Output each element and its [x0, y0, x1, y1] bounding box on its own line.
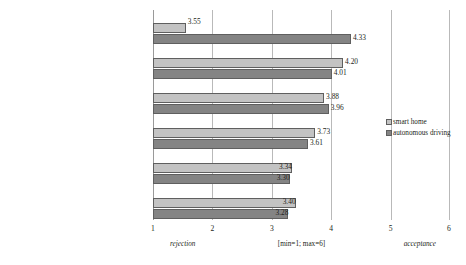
- bar-group: trust in the manufacturer 3.34 3.30: [153, 158, 450, 193]
- chart-legend: smart home autonomous driving: [386, 112, 466, 134]
- bar-value-label: 4.01: [332, 68, 347, 78]
- bar-value-label: 3.61: [308, 138, 323, 148]
- axis-annotation-acceptance: acceptance: [360, 240, 466, 248]
- legend-item-smart-home[interactable]: smart home: [386, 112, 466, 122]
- bar-value-label: 4.20: [343, 57, 358, 67]
- bar-smart-home: [153, 58, 343, 68]
- xtick-4: 4: [319, 224, 343, 233]
- xtick-2: 2: [200, 224, 224, 233]
- axis-annotation-scale: [min=1; max=6]: [242, 240, 362, 248]
- bar-value-label: 3.40: [272, 197, 298, 207]
- legend-label: autonomous driving: [393, 129, 451, 137]
- xtick-5: 5: [379, 224, 403, 233]
- bar-value-label: 4.33: [351, 33, 366, 43]
- bar-autonomous-driving: [153, 104, 329, 114]
- bar-value-label: 3.34: [268, 162, 294, 172]
- axis-annotation-rejection: rejection: [123, 240, 243, 248]
- bar-autonomous-driving: [153, 34, 351, 44]
- bar-value-label: 3.88: [324, 92, 339, 102]
- bar-smart-home: [153, 93, 324, 103]
- bar-value-label: 3.55: [186, 17, 201, 27]
- legend-item-autonomous-driving[interactable]: autonomous driving: [386, 123, 466, 133]
- xtick-3: 3: [260, 224, 284, 233]
- bar-group: test environment 3.55 4.33: [153, 18, 450, 53]
- xtick-6: 6: [437, 224, 461, 233]
- bar-value-label: 3.28: [264, 208, 290, 218]
- bar-group: environmental benefit / energy efficienc…: [153, 53, 450, 88]
- bar-value-label: 3.96: [329, 103, 344, 113]
- bar-value-label: 3.30: [266, 173, 292, 183]
- bar-value-label: 3.73: [315, 127, 330, 137]
- bar-autonomous-driving: [153, 69, 332, 79]
- xtick-1: 1: [141, 224, 165, 233]
- bar-smart-home: [153, 128, 315, 138]
- legend-swatch-icon: [386, 130, 392, 136]
- bar-group: recommendation 3.40 3.28: [153, 193, 450, 228]
- bar-autonomous-driving: [153, 139, 308, 149]
- bar-smart-home: [153, 23, 186, 33]
- bar-chart: test environment 3.55 4.33 environmental…: [0, 0, 466, 265]
